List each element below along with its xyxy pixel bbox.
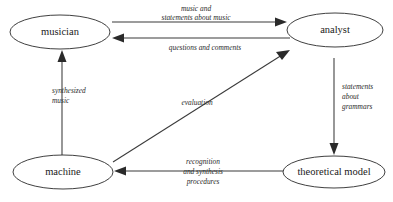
node-musician[interactable]: musician [10, 15, 110, 49]
edge-label-machine-to-analyst: evaluation [181, 98, 213, 107]
edge-label-machine-to-musician-line2: music [52, 96, 70, 105]
edge-machine-to-analyst: evaluation [113, 50, 290, 162]
edge-label-analyst-to-musician: questions and comments [169, 43, 241, 52]
edge-label-theoretical-model-to-machine-line3: procedures [186, 177, 220, 186]
edge-label-theoretical-model-to-machine-line2: and synthesis [183, 167, 223, 176]
arrowhead-left-machine [114, 167, 126, 176]
diagram-svg: music and statements about music questio… [0, 0, 393, 202]
arrowhead-diagonal-analyst [276, 50, 290, 60]
node-machine[interactable]: machine [13, 155, 113, 189]
edge-machine-to-musician: synthesized music [52, 50, 86, 155]
diagram-canvas: music and statements about music questio… [0, 0, 393, 202]
edge-label-analyst-to-theoretical-model-line3: grammars [342, 102, 373, 111]
arrowhead-down-theoretical-model [330, 143, 339, 155]
edge-label-musician-to-analyst-line2: statements about music [162, 13, 232, 22]
edge-theoretical-model-to-machine: recognition and synthesis procedures [114, 157, 283, 186]
node-label-musician: musician [41, 26, 80, 37]
node-theoretical-model[interactable]: theoretical model [283, 156, 385, 188]
edge-label-theoretical-model-to-machine-line1: recognition [186, 157, 220, 166]
node-label-theoretical-model: theoretical model [297, 166, 370, 177]
edge-label-machine-to-musician-line1: synthesized [52, 86, 86, 95]
edge-analyst-to-musician: questions and comments [112, 34, 290, 53]
arrowhead-right-analyst [275, 18, 287, 27]
edge-line-machine-to-analyst [113, 55, 282, 162]
arrowhead-up-musician [58, 50, 67, 62]
node-label-machine: machine [45, 166, 81, 177]
node-analyst[interactable]: analyst [287, 13, 383, 47]
arrowhead-left-musician [112, 34, 124, 43]
edge-analyst-to-theoretical-model: statements about grammars [330, 58, 374, 155]
edge-musician-to-analyst: music and statements about music [112, 4, 287, 27]
edge-label-analyst-to-theoretical-model-line1: statements [342, 82, 373, 91]
edge-label-analyst-to-theoretical-model-line2: about [342, 92, 360, 101]
node-label-analyst: analyst [320, 24, 350, 35]
